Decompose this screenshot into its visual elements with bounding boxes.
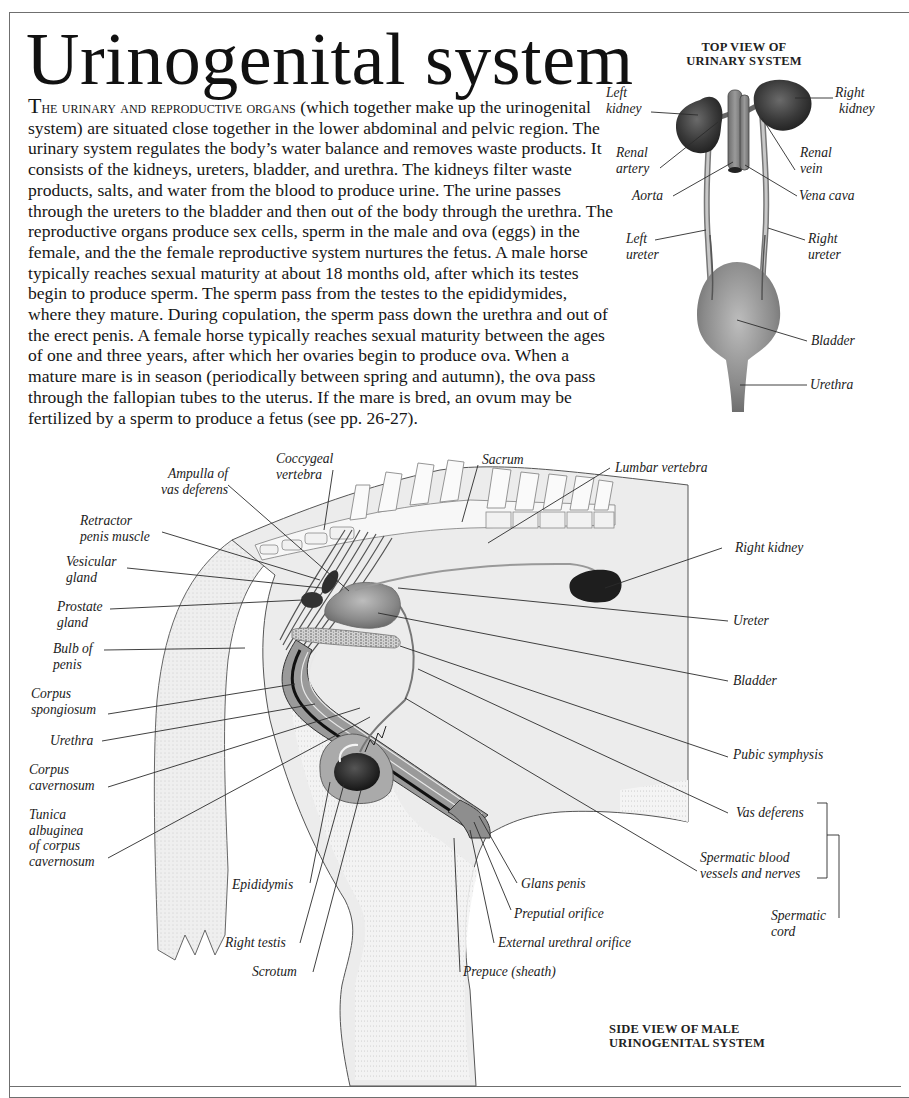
label-coccygeal-vertebra: Coccygealvertebra [276, 451, 333, 482]
label-aorta: Aorta [632, 188, 663, 204]
label-sacrum: Sacrum [482, 452, 524, 468]
label-epididymis: Epididymis [232, 877, 293, 893]
label-urethra-top: Urethra [810, 377, 853, 393]
side-view-title: SIDE VIEW OF MALE URINOGENITAL SYSTEM [609, 1022, 765, 1050]
label-glans-penis: Glans penis [521, 876, 586, 892]
label-vas-deferens: Vas deferens [736, 805, 804, 821]
side-view-title-line1: SIDE VIEW OF MALE [609, 1022, 765, 1036]
label-prostate-gland: Prostategland [57, 599, 103, 630]
label-ureter: Ureter [733, 613, 769, 629]
label-corpus-cavernosum: Corpuscavernosum [29, 762, 95, 793]
label-pubic-symphysis: Pubic symphysis [733, 747, 823, 763]
label-spermatic-vessels: Spermatic bloodvessels and nerves [700, 850, 800, 881]
label-corpus-spongiosum: Corpusspongiosum [31, 686, 96, 717]
label-spermatic-cord: Spermaticcord [771, 908, 826, 939]
label-right-ureter: Rightureter [808, 231, 841, 262]
label-left-ureter: Leftureter [626, 231, 659, 262]
label-urethra-side: Urethra [50, 733, 93, 749]
label-renal-vein: Renalvein [800, 145, 832, 176]
label-bladder-side: Bladder [733, 673, 777, 689]
label-right-kidney-top: Rightkidney [835, 85, 874, 116]
label-right-testis: Right testis [225, 935, 286, 951]
side-view-drawing [102, 460, 839, 1086]
label-bladder-top: Bladder [811, 333, 855, 349]
side-view-title-line2: URINOGENITAL SYSTEM [609, 1036, 765, 1050]
label-left-kidney: Leftkidney [606, 85, 641, 116]
label-right-kidney-side: Right kidney [735, 540, 803, 556]
label-prepuce: Prepuce (sheath) [463, 964, 556, 980]
label-tunica-albuginea: Tunicaalbugineaof corpuscavernosum [29, 807, 95, 869]
label-vesicular-gland: Vesiculargland [66, 554, 117, 585]
label-renal-artery: Renalartery [616, 145, 649, 176]
top-view-drawing [651, 80, 833, 412]
label-bulb-of-penis: Bulb ofpenis [53, 641, 93, 672]
label-retractor-penis-muscle: Retractorpenis muscle [80, 513, 150, 544]
label-preputial-orifice: Preputial orifice [514, 906, 604, 922]
label-scrotum: Scrotum [252, 964, 297, 980]
label-lumbar-vertebra: Lumbar vertebra [615, 460, 708, 476]
label-ampulla: Ampulla ofvas deferens [144, 466, 228, 497]
label-vena-cava: Vena cava [799, 188, 854, 204]
label-external-urethral-orifice: External urethral orifice [498, 935, 631, 951]
